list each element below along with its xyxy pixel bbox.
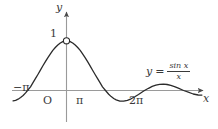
equation-fraction: sin x x	[167, 62, 190, 81]
y-axis-label: y	[56, 2, 62, 13]
x-tick-label-neg-pi: −π	[13, 82, 29, 93]
equation-numerator: sin x	[167, 62, 190, 71]
x-tick-label-two-pi: 2π	[129, 95, 143, 106]
origin-label: O	[43, 95, 52, 106]
equation-lhs: y	[146, 65, 152, 78]
sinc-function-figure: y x 1 O −π π 2π y = sin x x	[0, 0, 218, 129]
x-axis-label: x	[203, 93, 209, 104]
equation-equals-sign: =	[155, 65, 164, 78]
x-tick-label-pi: π	[76, 95, 83, 106]
equation-denominator: x	[175, 72, 184, 81]
function-equation-annotation: y = sin x x	[146, 62, 190, 81]
open-point-marker	[63, 38, 69, 44]
y-tick-label-1: 1	[50, 28, 57, 39]
